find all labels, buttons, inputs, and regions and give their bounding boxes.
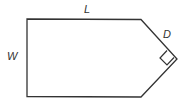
diagram-canvas: L W D xyxy=(0,0,187,103)
label-length: L xyxy=(84,3,90,15)
label-diagonal: D xyxy=(163,28,171,40)
label-width: W xyxy=(7,50,19,62)
shape-outline xyxy=(27,19,177,97)
